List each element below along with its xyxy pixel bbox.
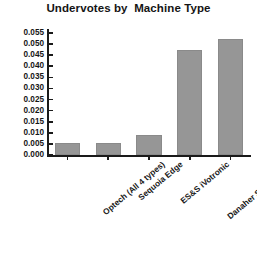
y-tick-mark — [49, 110, 53, 112]
y-tick-label: 0.030 — [24, 84, 45, 92]
bar — [136, 135, 161, 155]
y-tick-label: 0.050 — [24, 40, 45, 48]
y-tick-mark — [49, 54, 53, 56]
y-tick-label: 0.000 — [24, 151, 45, 159]
bar — [218, 39, 243, 155]
y-tick-mark — [49, 77, 53, 79]
y-tick-label: 0.035 — [24, 73, 45, 81]
y-tick-mark — [49, 65, 53, 67]
x-tick-label: ES&S iVotronic — [179, 160, 230, 205]
chart-title: Undervotes by Machine Type — [0, 2, 257, 14]
x-axis-labels: Optech (All 4 types)Sequoia EdgeES&S iVo… — [47, 160, 257, 255]
y-tick-label: 0.010 — [24, 129, 45, 137]
y-tick-label: 0.040 — [24, 62, 45, 70]
y-tick-mark — [49, 154, 53, 156]
y-tick-label: 0.055 — [24, 29, 45, 37]
y-tick-label: 0.015 — [24, 118, 45, 126]
y-tick-label: 0.005 — [24, 140, 45, 148]
y-axis-line — [47, 29, 49, 156]
bar — [96, 143, 121, 155]
y-tick-mark — [49, 88, 53, 90]
plot-area: 0.0000.0050.0100.0150.0200.0250.0300.035… — [47, 33, 251, 155]
y-tick-label: 0.045 — [24, 51, 45, 59]
y-tick-mark — [49, 32, 53, 34]
y-tick-mark — [49, 99, 53, 101]
y-tick-mark — [49, 132, 53, 134]
y-tick-mark — [49, 143, 53, 145]
y-tick-mark — [49, 121, 53, 123]
y-tick-label: 0.020 — [24, 107, 45, 115]
y-tick-mark — [49, 43, 53, 45]
chart-container: Undervotes by Machine Type 0.0000.0050.0… — [0, 0, 257, 259]
bar — [177, 50, 202, 155]
x-tick-label: Danaher Shouptronic — [226, 160, 257, 221]
y-tick-label: 0.025 — [24, 95, 45, 103]
bar — [55, 143, 80, 155]
